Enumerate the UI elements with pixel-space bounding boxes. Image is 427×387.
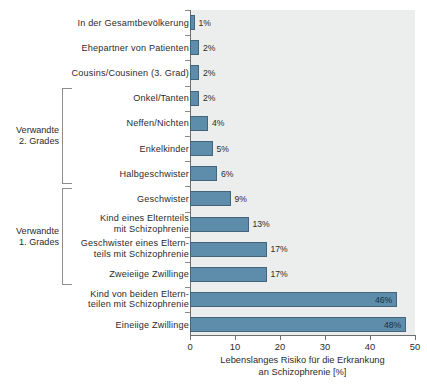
bar-value-label: 1% [199, 18, 211, 28]
bar-container: 17% [190, 237, 427, 262]
x-tick-label: 20 [275, 341, 285, 352]
category-label: Onkel/Tanten [133, 93, 189, 104]
category-tick [185, 35, 190, 36]
category-label: Geschwister [137, 194, 189, 205]
category-label: Cousins/Cousinen (3. Grad) [72, 68, 189, 79]
bar [190, 91, 199, 106]
bar-container: 17% [190, 262, 427, 287]
group-bracket-label: Verwandte 1. Grades [16, 226, 59, 248]
bar-container: 2% [190, 86, 427, 111]
category-tick [185, 86, 190, 87]
bar-row: In der Gesamtbevölkerung1% [0, 10, 427, 35]
category-tick [185, 262, 190, 263]
group-bracket-label: Verwandte 2. Grades [16, 125, 59, 147]
bar-container: 6% [190, 161, 427, 186]
category-label: Enkelkinder [139, 143, 189, 154]
category-label: Geschwister eines Eltern- teils mit Schi… [81, 239, 189, 260]
x-tick [190, 335, 191, 340]
bar [190, 267, 267, 282]
category-label: Ehepartner von Patienten [81, 42, 189, 53]
x-tick-label: 50 [410, 341, 420, 352]
x-tick [415, 335, 416, 340]
x-tick [325, 335, 326, 340]
bar-container: 2% [190, 35, 427, 60]
bar-container: 2% [190, 60, 427, 85]
bar-row: Ehepartner von Patienten2% [0, 35, 427, 60]
bar-value-label: 6% [221, 169, 233, 179]
bar [190, 116, 208, 131]
bar-container: 5% [190, 136, 427, 161]
bar-value-label: 13% [253, 219, 270, 229]
bar [190, 166, 217, 181]
category-label: Neffen/Nichten [126, 118, 189, 129]
bar-row: Eineiige Zwillinge48% [0, 312, 427, 337]
bar-container: 13% [190, 212, 427, 237]
category-tick [185, 186, 190, 187]
category-label: Kind eines Elternteils mit Schizophrenie [100, 214, 189, 235]
x-tick-label: 10 [230, 341, 240, 352]
bar-container: 48% [190, 312, 427, 337]
bar-value-label: 5% [217, 144, 229, 154]
bar-value-label: 46% [375, 295, 392, 305]
bar [190, 15, 195, 30]
x-tick-label: 30 [320, 341, 330, 352]
bar-value-label: 2% [203, 43, 215, 53]
bar-value-label: 2% [203, 93, 215, 103]
bar-value-label: 48% [384, 320, 401, 330]
x-tick [370, 335, 371, 340]
schizophrenia-risk-bar-chart: In der Gesamtbevölkerung1%Ehepartner von… [0, 0, 427, 387]
category-tick [185, 161, 190, 162]
category-tick [185, 287, 190, 288]
category-tick [185, 312, 190, 313]
x-tick-label: 0 [187, 341, 192, 352]
category-tick [185, 60, 190, 61]
bar-row: Kind von beiden Eltern- teilen mit Schiz… [0, 287, 427, 312]
bar-container: 4% [190, 111, 427, 136]
bar [190, 40, 199, 55]
category-tick [185, 212, 190, 213]
bar-value-label: 4% [212, 118, 224, 128]
category-label: Eineiige Zwillinge [115, 320, 189, 331]
bar-value-label: 17% [271, 244, 288, 254]
bar [190, 191, 231, 206]
bar [190, 217, 249, 232]
x-axis-title: Lebenslanges Risiko für die Erkrankung a… [190, 355, 415, 378]
x-tick [280, 335, 281, 340]
bar [190, 242, 267, 257]
bar-row: Cousins/Cousinen (3. Grad)2% [0, 60, 427, 85]
bar-value-label: 17% [271, 269, 288, 279]
bar [190, 292, 397, 307]
bar-container: 1% [190, 10, 427, 35]
category-tick [185, 111, 190, 112]
bar [190, 141, 213, 156]
bar-container: 9% [190, 186, 427, 211]
category-label: In der Gesamtbevölkerung [77, 17, 189, 28]
category-label: Kind von beiden Eltern- teilen mit Schiz… [88, 289, 189, 310]
category-tick [185, 237, 190, 238]
group-bracket [62, 88, 72, 185]
bar-value-label: 2% [203, 68, 215, 78]
group-bracket [62, 188, 72, 285]
x-axis-line [190, 335, 415, 336]
bar-value-label: 9% [235, 194, 247, 204]
x-tick-label: 40 [365, 341, 375, 352]
category-label: Zweieiige Zwillinge [109, 269, 189, 280]
category-tick [185, 136, 190, 137]
x-tick [235, 335, 236, 340]
bar [190, 65, 199, 80]
category-tick [185, 10, 190, 11]
category-label: Halbgeschwister [120, 168, 189, 179]
bar-container: 46% [190, 287, 427, 312]
bar [190, 317, 406, 332]
